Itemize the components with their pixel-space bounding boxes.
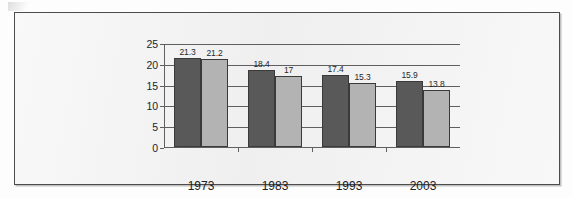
chart-figure-frame: 0510152025 21.321.218.41717.415.315.913.… [14, 12, 560, 185]
y-tick-label: 25 [147, 38, 158, 50]
bar-private: 21.2 [201, 59, 228, 147]
bar-value-label: 17.4 [328, 64, 344, 74]
y-tick-label: 0 [152, 142, 158, 154]
bar-group: 21.321.2 [174, 58, 228, 147]
y-tick-label: 15 [147, 80, 158, 92]
x-category-label: 1983 [262, 179, 289, 193]
gridline [164, 44, 460, 45]
bar-private: 17 [275, 76, 302, 147]
bar-value-label: 13.8 [429, 79, 445, 89]
bar-value-label: 17 [284, 65, 293, 75]
y-tick-mark [160, 65, 164, 66]
legend-item: Private school [336, 197, 441, 198]
bar-chart: 0510152025 21.321.218.41717.415.315.913.… [150, 37, 470, 157]
y-tick-label: 5 [152, 121, 158, 133]
bar-public: 18.4 [248, 70, 275, 147]
y-tick-label: 20 [147, 59, 158, 71]
bar-private: 15.3 [349, 83, 376, 147]
y-tick-mark [160, 44, 164, 45]
bar-private: 13.8 [423, 90, 450, 147]
x-tick-mark [386, 148, 387, 152]
y-tick-mark [160, 148, 164, 149]
x-category-label: 2003 [410, 179, 437, 193]
scan-artifact [8, 2, 34, 11]
bar-public: 21.3 [174, 58, 201, 147]
bar-value-label: 21.3 [180, 47, 196, 57]
bar-value-label: 18.4 [254, 59, 270, 69]
bar-value-label: 15.9 [402, 70, 418, 80]
x-category-label: 1973 [188, 179, 215, 193]
plot-area: 0510152025 21.321.218.41717.415.315.913.… [164, 44, 460, 148]
bar-group: 15.913.8 [396, 81, 450, 147]
bar-public: 15.9 [396, 81, 423, 147]
x-tick-mark [238, 148, 239, 152]
x-category-label: 1993 [336, 179, 363, 193]
legend-label: Private school [366, 197, 441, 198]
x-tick-mark [312, 148, 313, 152]
bar-public: 17.4 [322, 75, 349, 147]
bar-group: 18.417 [248, 70, 302, 147]
bar-value-label: 15.3 [355, 72, 371, 82]
y-axis-line [164, 44, 165, 148]
y-tick-mark [160, 106, 164, 107]
bar-value-label: 21.2 [207, 48, 223, 58]
y-tick-label: 10 [147, 100, 158, 112]
bar-group: 17.415.3 [322, 75, 376, 147]
chart-legend: Public schoolPrivate school [150, 197, 470, 198]
legend-label: Public school [209, 197, 280, 198]
y-tick-mark [160, 127, 164, 128]
y-tick-mark [160, 86, 164, 87]
legend-item: Public school [179, 197, 280, 198]
